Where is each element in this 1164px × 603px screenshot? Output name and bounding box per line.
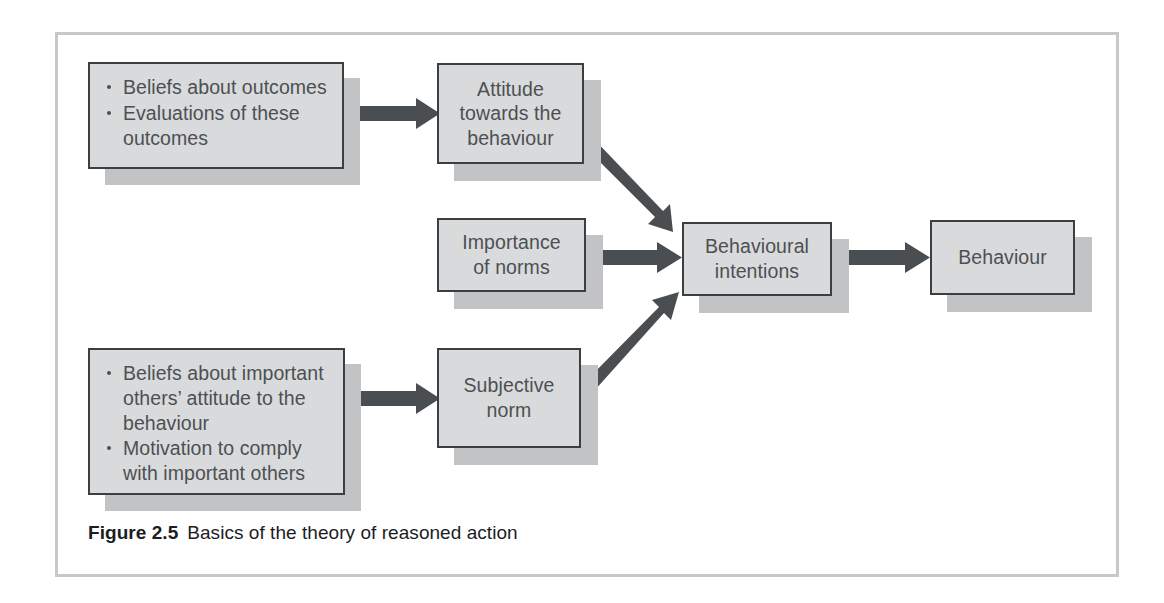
subjective-norm-label: Subjective norm <box>464 373 555 422</box>
list-item: Beliefs about important others’ attitude… <box>104 361 331 435</box>
importance-of-norms-label: Importance of norms <box>462 230 561 279</box>
subjective-norm-box: Subjective norm <box>437 348 581 448</box>
figure-caption: Figure 2.5Basics of the theory of reason… <box>88 522 518 544</box>
beliefs-about-important-others-list: Beliefs about important others’ attitude… <box>104 361 331 486</box>
attitude-towards-behaviour-box: Attitude towards the behaviour <box>437 63 584 164</box>
list-item: Motivation to comply with important othe… <box>104 436 331 486</box>
figure-container: Beliefs about outcomes Evaluations of th… <box>0 0 1164 603</box>
figure-caption-number: Figure 2.5 <box>88 522 178 543</box>
behavioural-intentions-label: Behavioural intentions <box>705 234 809 283</box>
figure-caption-text: Basics of the theory of reasoned action <box>187 522 517 543</box>
importance-of-norms-box: Importance of norms <box>437 218 586 292</box>
behaviour-box: Behaviour <box>930 220 1075 295</box>
attitude-towards-behaviour-label: Attitude towards the behaviour <box>460 77 562 151</box>
beliefs-about-important-others-box: Beliefs about important others’ attitude… <box>88 348 345 495</box>
list-item: Evaluations of these outcomes <box>104 101 330 151</box>
list-item: Beliefs about outcomes <box>104 75 330 100</box>
behaviour-label: Behaviour <box>958 245 1047 270</box>
beliefs-about-outcomes-list: Beliefs about outcomes Evaluations of th… <box>104 75 330 150</box>
behavioural-intentions-box: Behavioural intentions <box>682 222 832 296</box>
beliefs-about-outcomes-box: Beliefs about outcomes Evaluations of th… <box>88 62 344 169</box>
